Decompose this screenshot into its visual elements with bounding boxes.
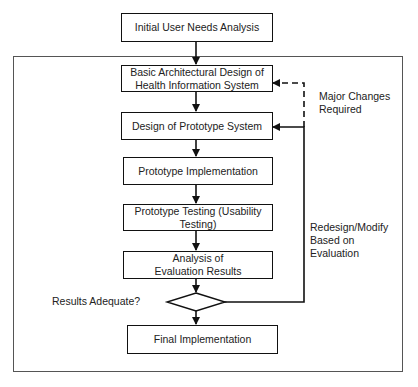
node-label: Prototype Testing (Usability Testing) bbox=[133, 205, 263, 231]
node-label: Initial User Needs Analysis bbox=[135, 21, 259, 34]
node-prototype-implementation: Prototype Implementation bbox=[123, 157, 273, 185]
major-changes-label: Major Changes Required bbox=[319, 90, 399, 116]
decision-label: Results Adequate? bbox=[52, 295, 140, 308]
node-label: Basic Architectural Design of Health Inf… bbox=[130, 66, 265, 92]
node-initial-analysis: Initial User Needs Analysis bbox=[121, 13, 273, 42]
node-label: Analysis of Evaluation Results bbox=[148, 252, 248, 278]
node-prototype-design: Design of Prototype System bbox=[121, 112, 273, 140]
node-evaluation-analysis: Analysis of Evaluation Results bbox=[123, 251, 273, 279]
redesign-label: Redesign/Modify Based on Evaluation bbox=[310, 221, 405, 260]
node-final-implementation: Final Implementation bbox=[127, 325, 278, 354]
decision-diamond bbox=[167, 293, 225, 311]
node-label: Final Implementation bbox=[154, 333, 251, 346]
node-label: Prototype Implementation bbox=[138, 165, 258, 178]
node-label: Design of Prototype System bbox=[132, 120, 262, 133]
node-architectural-design: Basic Architectural Design of Health Inf… bbox=[121, 65, 273, 92]
node-prototype-testing: Prototype Testing (Usability Testing) bbox=[123, 204, 273, 231]
